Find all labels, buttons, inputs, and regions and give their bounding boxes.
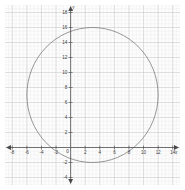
y-axis-label: y — [72, 5, 74, 10]
origin-label: 0 — [66, 150, 68, 155]
y-tick-label: 18 — [62, 10, 67, 15]
y-tick-label: 16 — [62, 25, 67, 30]
x-tick-label: 8 — [128, 151, 130, 156]
y-tick-label: 4 — [65, 115, 67, 120]
coordinate-graph-figure: -8-6-4-22468101214-4-2246810121416180 x … — [0, 0, 185, 190]
axes-layer — [5, 5, 180, 185]
y-tick-label: -2 — [63, 160, 67, 165]
y-tick-label: 8 — [65, 85, 67, 90]
x-tick-label: -6 — [25, 151, 29, 156]
y-tick-label: 10 — [62, 70, 67, 75]
x-tick-label: 4 — [99, 151, 101, 156]
x-tick-label: -4 — [40, 151, 44, 156]
y-tick-label: 14 — [62, 40, 67, 45]
x-tick-label: 10 — [141, 151, 146, 156]
x-tick-label: -2 — [54, 151, 58, 156]
y-tick-label: 2 — [65, 130, 67, 135]
plot-area: -8-6-4-22468101214-4-2246810121416180 x … — [5, 5, 180, 185]
y-tick-label: 6 — [65, 100, 67, 105]
x-tick-label: -8 — [10, 151, 14, 156]
x-axis-label: x — [175, 150, 177, 155]
x-tick-label: 12 — [156, 151, 161, 156]
y-tick-label: -4 — [63, 175, 67, 180]
y-tick-label: 12 — [62, 55, 67, 60]
axis-lines-and-ticks — [6, 6, 179, 184]
x-tick-label: 6 — [113, 151, 115, 156]
x-tick-label: 2 — [84, 151, 86, 156]
y-axis-arrow-negative — [68, 179, 73, 184]
